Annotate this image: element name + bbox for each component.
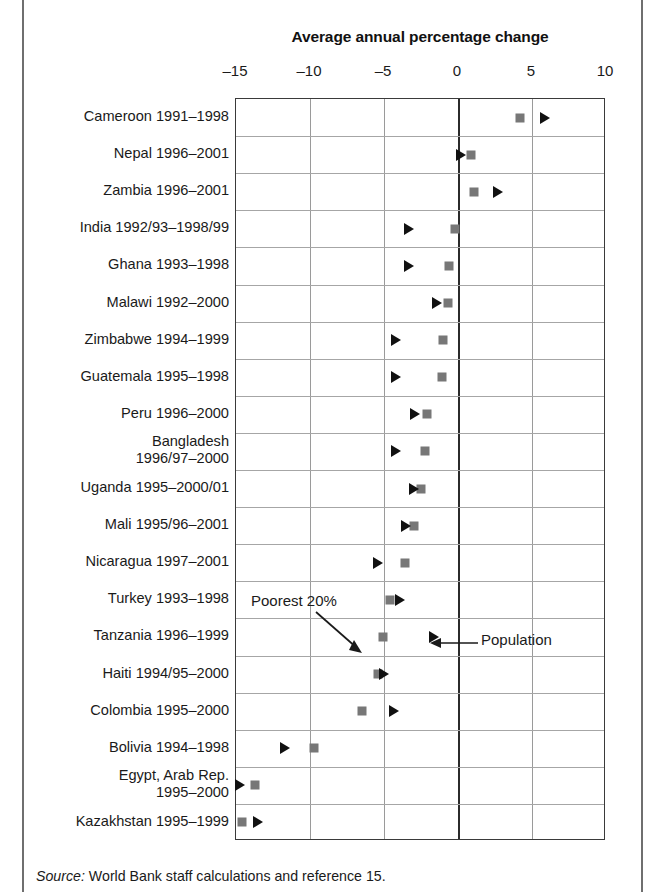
gridline-horizontal-15 [236, 656, 604, 657]
x-tick-label-4: 5 [527, 62, 535, 79]
marker-poorest-20-percent-3 [451, 224, 460, 233]
gridline-horizontal-11 [236, 507, 604, 508]
marker-population-6 [391, 334, 401, 346]
marker-population-5 [432, 297, 442, 309]
marker-poorest-20-percent-5 [443, 299, 452, 308]
x-tick-label-3: 0 [453, 62, 461, 79]
marker-population-7 [391, 371, 401, 383]
x-axis-tick-labels: –15–10–50510 [0, 62, 645, 84]
gridline-horizontal-16 [236, 693, 604, 694]
marker-population-14 [429, 631, 439, 643]
gridline-horizontal-17 [236, 730, 604, 731]
gridline-horizontal-6 [236, 322, 604, 323]
marker-population-12 [373, 557, 383, 569]
category-label-14: Tanzania 1996–1999 [24, 627, 229, 644]
marker-poorest-20-percent-2 [470, 187, 479, 196]
category-label-5: Malawi 1992–2000 [24, 294, 229, 311]
source-label: Source: [36, 868, 85, 884]
gridline-horizontal-1 [236, 136, 604, 137]
category-label-15: Haiti 1994/95–2000 [24, 665, 229, 682]
marker-population-19 [253, 816, 263, 828]
marker-poorest-20-percent-4 [445, 261, 454, 270]
page-rule-right [641, 0, 643, 892]
x-tick-label-1: –10 [296, 62, 321, 79]
gridline-horizontal-5 [236, 285, 604, 286]
marker-population-16 [389, 705, 399, 717]
plot-area [235, 98, 605, 840]
annotation-poorest-20-percent: Poorest 20% [251, 592, 337, 609]
category-label-18: Egypt, Arab Rep. 1995–2000 [24, 767, 229, 801]
x-tick-label-0: –15 [222, 62, 247, 79]
marker-poorest-20-percent-12 [400, 558, 409, 567]
annotation-population: Population [481, 631, 552, 648]
category-label-4: Ghana 1993–1998 [24, 256, 229, 273]
marker-population-3 [404, 223, 414, 235]
x-tick-label-2: –5 [375, 62, 392, 79]
gridline-horizontal-4 [236, 247, 604, 248]
category-label-0: Cameroon 1991–1998 [24, 108, 229, 125]
marker-poorest-20-percent-7 [437, 373, 446, 382]
marker-poorest-20-percent-14 [378, 632, 387, 641]
x-tick-label-5: 10 [597, 62, 614, 79]
category-label-7: Guatemala 1995–1998 [24, 368, 229, 385]
marker-population-9 [391, 445, 401, 457]
gridline-horizontal-14 [236, 618, 604, 619]
marker-population-15 [379, 668, 389, 680]
marker-poorest-20-percent-17 [310, 744, 319, 753]
marker-population-13 [395, 594, 405, 606]
marker-population-1 [456, 149, 466, 161]
marker-poorest-20-percent-6 [439, 336, 448, 345]
category-label-16: Colombia 1995–2000 [24, 702, 229, 719]
category-axis-labels: Cameroon 1991–1998Nepal 1996–2001Zambia … [24, 98, 229, 840]
gridline-horizontal-7 [236, 359, 604, 360]
source-note: Source: World Bank staff calculations an… [36, 868, 386, 884]
category-label-9: Bangladesh 1996/97–2000 [24, 433, 229, 467]
marker-population-18 [235, 779, 245, 791]
marker-poorest-20-percent-1 [467, 150, 476, 159]
marker-poorest-20-percent-18 [251, 781, 260, 790]
marker-population-2 [493, 186, 503, 198]
gridline-horizontal-2 [236, 173, 604, 174]
category-label-8: Peru 1996–2000 [24, 405, 229, 422]
category-label-2: Zambia 1996–2001 [24, 182, 229, 199]
marker-poorest-20-percent-8 [422, 410, 431, 419]
gridline-horizontal-9 [236, 433, 604, 434]
marker-poorest-20-percent-13 [385, 595, 394, 604]
category-label-1: Nepal 1996–2001 [24, 145, 229, 162]
category-label-10: Uganda 1995–2000/01 [24, 479, 229, 496]
marker-poorest-20-percent-16 [357, 707, 366, 716]
marker-poorest-20-percent-19 [237, 818, 246, 827]
gridline-horizontal-10 [236, 470, 604, 471]
chart-title: Average annual percentage change [235, 28, 605, 46]
gridline-horizontal-19 [236, 804, 604, 805]
marker-population-8 [410, 408, 420, 420]
category-label-12: Nicaragua 1997–2001 [24, 553, 229, 570]
marker-population-0 [540, 112, 550, 124]
marker-population-4 [404, 260, 414, 272]
gridline-horizontal-13 [236, 581, 604, 582]
marker-poorest-20-percent-9 [421, 447, 430, 456]
marker-population-11 [401, 520, 411, 532]
category-label-13: Turkey 1993–1998 [24, 590, 229, 607]
category-label-19: Kazakhstan 1995–1999 [24, 813, 229, 830]
category-label-6: Zimbabwe 1994–1999 [24, 331, 229, 348]
gridline-horizontal-8 [236, 396, 604, 397]
gridline-horizontal-18 [236, 767, 604, 768]
gridline-horizontal-12 [236, 544, 604, 545]
category-label-11: Mali 1995/96–2001 [24, 516, 229, 533]
source-text: World Bank staff calculations and refere… [89, 868, 386, 884]
gridline-horizontal-3 [236, 210, 604, 211]
marker-population-17 [280, 742, 290, 754]
category-label-3: India 1992/93–1998/99 [24, 219, 229, 236]
marker-population-10 [409, 483, 419, 495]
category-label-17: Bolivia 1994–1998 [24, 739, 229, 756]
marker-poorest-20-percent-0 [516, 113, 525, 122]
